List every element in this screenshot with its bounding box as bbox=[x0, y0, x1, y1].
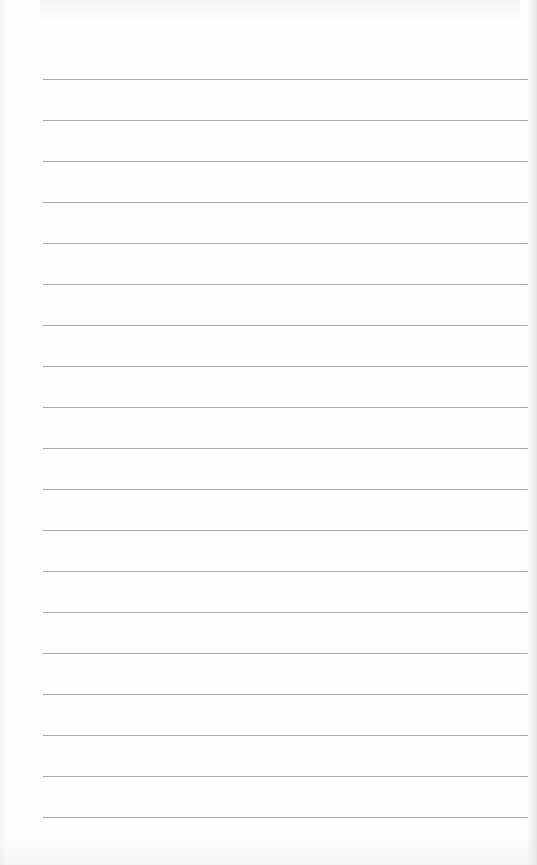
ruled-line bbox=[43, 202, 528, 203]
ruled-line bbox=[43, 448, 528, 449]
ruled-line bbox=[43, 694, 528, 695]
ruled-line bbox=[43, 530, 528, 531]
ruled-line bbox=[43, 161, 528, 162]
ruled-line bbox=[43, 407, 528, 408]
ruled-line bbox=[43, 653, 528, 654]
ruled-line bbox=[43, 571, 528, 572]
ruled-line bbox=[43, 325, 528, 326]
ruled-line bbox=[43, 776, 528, 777]
ruled-line bbox=[43, 817, 528, 818]
lined-paper-page bbox=[0, 0, 537, 865]
ruled-line bbox=[43, 284, 528, 285]
ruled-line bbox=[43, 366, 528, 367]
ruled-line bbox=[43, 612, 528, 613]
ruled-line bbox=[43, 489, 528, 490]
bottom-bleed-through bbox=[0, 835, 537, 865]
ruled-line bbox=[43, 243, 528, 244]
right-page-edge-shadow bbox=[527, 0, 537, 865]
ruled-line bbox=[43, 120, 528, 121]
left-page-edge bbox=[0, 0, 6, 865]
top-bleed-through bbox=[40, 0, 520, 22]
ruled-line bbox=[43, 735, 528, 736]
ruled-line bbox=[43, 79, 528, 80]
